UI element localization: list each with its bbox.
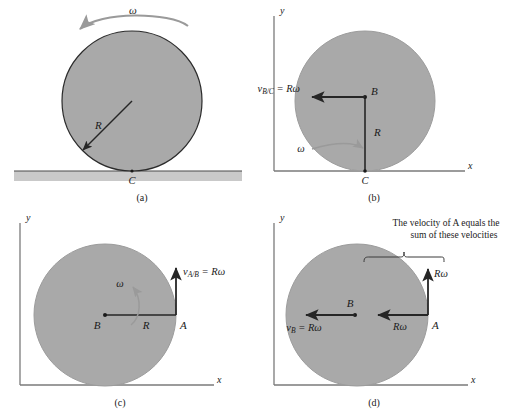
point-a-label: A [431,319,439,331]
romega-horizontal-label: Rω [392,321,407,332]
contact-point-dot [363,169,367,173]
panel-d-caption: (d) [368,397,380,409]
panel-c-svg: y x R B A vA/B = Rω ω (c) [0,205,254,410]
panel-b-caption: (b) [368,192,380,204]
panel-c: y x R B A vA/B = Rω ω (c) [0,205,254,410]
panel-d: The velocity of A equals the sum of thes… [254,205,507,410]
panel-a: ω R C (a) [0,0,254,205]
radius-label: R [94,119,102,131]
omega-arrow [80,15,188,29]
x-axis-label: x [216,374,222,385]
radius-label: R [142,319,150,331]
panel-a-svg: ω R C (a) [0,0,254,205]
y-axis-label: y [25,212,31,223]
velocity-bc-label: vB/C = Rω [257,83,300,96]
radius-label: R [373,126,381,138]
point-a-label: A [179,319,187,331]
omega-label: ω [129,4,137,16]
romega-vertical-label: Rω [433,268,448,279]
omega-label: ω [297,143,304,154]
point-b-label: B [371,85,378,97]
contact-label: C [361,175,369,186]
panel-b: y x R B vB/C = Rω ω C (b) [254,0,507,205]
y-axis-label: y [279,212,285,223]
panel-d-svg: The velocity of A equals the sum of thes… [254,205,507,410]
velocity-ab-label: vA/B = Rω [183,266,225,279]
y-axis-label: y [279,5,285,16]
contact-point-dot [130,169,133,172]
panel-c-caption: (c) [114,397,125,409]
note-line-2: sum of these velocities [411,230,498,240]
x-axis-label: x [467,160,473,171]
note-line-1: The velocity of A equals the [393,218,500,228]
contact-label: C [128,175,136,186]
point-b-dot [103,313,107,317]
omega-label: ω [116,278,123,289]
panel-b-svg: y x R B vB/C = Rω ω C (b) [254,0,507,205]
panel-a-caption: (a) [136,192,147,204]
rolling-disk-figure: ω R C (a) y x [0,0,507,410]
point-b-label: B [347,297,354,309]
x-axis-label: x [470,374,476,385]
point-b-label: B [94,319,101,331]
